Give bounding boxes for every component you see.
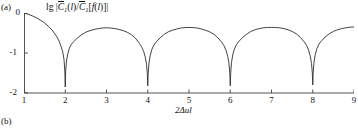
y-axis-title-prefix: lg | — [46, 2, 58, 12]
x-tick-label-3: 3 — [100, 95, 114, 105]
x-tick-label-7: 7 — [265, 95, 279, 105]
x-tick-marks — [24, 90, 354, 94]
y-tick-marks — [25, 13, 29, 93]
x-tick-label-6: 6 — [223, 95, 237, 105]
panel-b-label: (b) — [1, 116, 12, 126]
data-curve — [24, 13, 354, 87]
c1-symbol: C — [58, 2, 64, 12]
y-axis-title-suffix: | — [106, 2, 108, 12]
x-axis-l: l — [189, 105, 192, 115]
x-axis-title: 2Δul — [175, 105, 192, 115]
y-tick-label-minus2: -2 — [1, 87, 17, 97]
x-tick-label-4: 4 — [141, 95, 155, 105]
plot-svg — [24, 13, 354, 95]
y-tick-label-0: 0 — [4, 7, 20, 17]
x-tick-label-5: 5 — [182, 95, 196, 105]
x-tick-label-8: 8 — [306, 95, 320, 105]
x-tick-label-1: 1 — [17, 95, 31, 105]
x-tick-label-9: 9 — [347, 95, 358, 105]
c1-symbol-2: C — [79, 2, 85, 12]
figure-panel-a: (a) (b) lg |C1(l)/C1[f(l)]| 0 -1 -2 2Δul… — [0, 0, 358, 128]
y-tick-label-minus1: -1 — [1, 47, 17, 57]
y-axis-title: lg |C1(l)/C1[f(l)]| — [46, 2, 108, 13]
plot-area — [24, 13, 354, 93]
x-tick-label-2: 2 — [58, 95, 72, 105]
